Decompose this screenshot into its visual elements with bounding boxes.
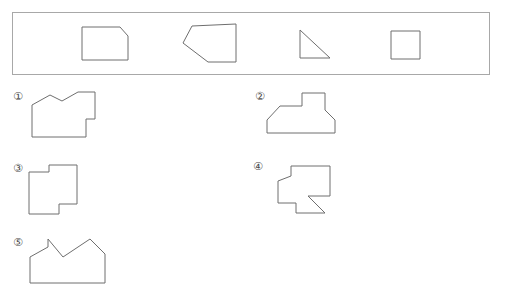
option-2-shape[interactable]: [267, 93, 335, 133]
pieces-panel: [12, 12, 490, 75]
option-label-3[interactable]: ③: [10, 162, 26, 176]
puzzle-page: ① ② ③ ④ ⑤: [0, 0, 505, 306]
option-3-shape[interactable]: [29, 165, 77, 214]
option-1-shape[interactable]: [32, 92, 95, 137]
option-4-shape[interactable]: [278, 166, 330, 213]
option-label-4[interactable]: ④: [250, 160, 266, 174]
option-5-shape[interactable]: [30, 239, 105, 283]
option-label-2[interactable]: ②: [252, 90, 268, 104]
option-label-5[interactable]: ⑤: [10, 236, 26, 250]
option-label-1[interactable]: ①: [10, 90, 26, 104]
